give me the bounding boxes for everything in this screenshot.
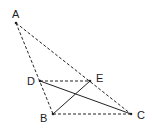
point-c <box>130 113 133 116</box>
segment-ab <box>16 23 53 114</box>
label-c: C <box>137 109 145 121</box>
segment-dc <box>40 81 131 114</box>
label-e: E <box>96 72 103 84</box>
point-b <box>52 113 55 116</box>
label-b: B <box>40 112 47 124</box>
segment-ac <box>16 23 131 114</box>
label-d: D <box>27 75 35 87</box>
point-d <box>39 80 42 83</box>
point-a <box>15 22 18 25</box>
point-e <box>89 80 92 83</box>
geometry-diagram: A D E B C <box>0 0 152 129</box>
label-a: A <box>12 8 20 20</box>
